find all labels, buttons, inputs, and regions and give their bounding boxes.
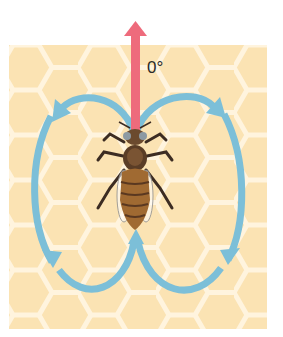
direction-angle-label: 0° bbox=[147, 58, 163, 78]
waggle-dance-diagram: 0° bbox=[0, 0, 283, 337]
diagram-canvas bbox=[0, 0, 283, 337]
